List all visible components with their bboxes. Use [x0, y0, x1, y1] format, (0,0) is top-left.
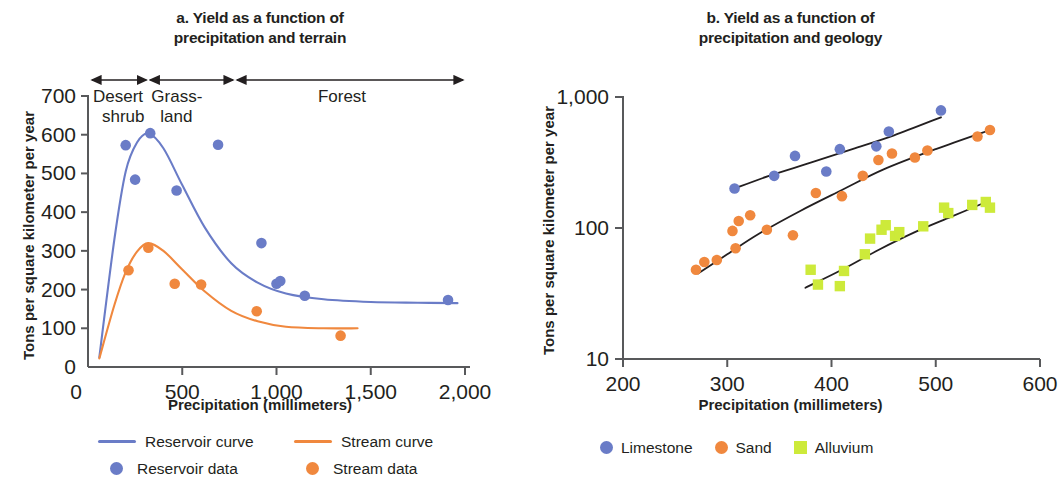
data-point	[811, 188, 822, 199]
data-point	[805, 265, 815, 275]
panel-b-x-tick-label: 500	[918, 372, 953, 395]
data-point	[936, 105, 947, 116]
legend-row: LimestoneSandAlluvium	[600, 434, 1020, 461]
data-point	[985, 125, 996, 136]
legend-item[interactable]: Reservoir curve	[98, 433, 294, 451]
data-point	[699, 257, 710, 268]
legend-item[interactable]: Reservoir data	[98, 460, 294, 478]
data-point	[884, 126, 895, 137]
data-point	[887, 148, 898, 159]
legend-marker-dot	[110, 462, 123, 475]
data-point	[733, 216, 744, 227]
data-point	[769, 171, 780, 182]
legend-item[interactable]: Limestone	[600, 439, 693, 457]
legend-item[interactable]: Alluvium	[794, 439, 874, 457]
legend-item-label: Stream data	[333, 460, 417, 478]
data-point	[790, 151, 801, 162]
data-point	[712, 255, 723, 266]
figure-root: a. Yield as a function of precipitation …	[0, 0, 1061, 488]
legend-marker-dot	[715, 441, 728, 454]
panel-b-legend: LimestoneSandAlluvium	[600, 434, 1020, 461]
legend-item-label: Stream curve	[341, 433, 433, 451]
legend-marker-dot	[600, 441, 613, 454]
data-point	[762, 224, 773, 235]
data-point	[894, 227, 904, 237]
legend-marker-line	[98, 440, 136, 443]
data-point	[730, 243, 741, 254]
panel-a-legend: Reservoir curveStream curveReservoir dat…	[98, 428, 498, 482]
data-point	[918, 221, 928, 231]
legend-item-label: Limestone	[621, 439, 693, 457]
panel-b-y-tick-label: 100	[574, 216, 609, 239]
data-point	[860, 249, 870, 259]
legend-item-label: Alluvium	[815, 439, 874, 457]
data-point	[967, 200, 977, 210]
series-trend-line	[805, 201, 987, 287]
data-point	[788, 230, 799, 241]
data-point	[873, 155, 884, 166]
data-point	[691, 264, 702, 275]
legend-marker-line	[294, 440, 332, 443]
data-point	[729, 183, 740, 194]
panel-b-x-tick-label: 300	[710, 372, 745, 395]
data-point	[922, 145, 933, 156]
panel-b-x-tick-label: 400	[814, 372, 849, 395]
data-point	[857, 171, 868, 182]
data-point	[865, 233, 875, 243]
legend-item[interactable]: Sand	[715, 439, 772, 457]
data-point	[972, 131, 983, 142]
legend-row: Reservoir curveStream curve	[98, 428, 498, 455]
data-point	[835, 144, 846, 155]
data-point	[871, 141, 882, 152]
data-point	[837, 191, 848, 202]
legend-item-label: Reservoir curve	[145, 433, 254, 451]
legend-item-label: Sand	[736, 439, 772, 457]
data-point	[727, 226, 738, 237]
legend-item[interactable]: Stream data	[294, 460, 490, 478]
panel-b-y-tick-label: 10	[586, 347, 609, 370]
panel-b-x-tick-label: 600	[1022, 372, 1057, 395]
legend-item[interactable]: Stream curve	[294, 433, 490, 451]
data-point	[881, 220, 891, 230]
data-point	[745, 210, 756, 221]
data-point	[910, 152, 921, 163]
data-point	[835, 281, 845, 291]
data-point	[943, 208, 953, 218]
data-point	[985, 202, 995, 212]
legend-item-label: Reservoir data	[137, 460, 238, 478]
panel-b-y-tick-label: 1,000	[556, 85, 609, 108]
data-point	[813, 279, 823, 289]
data-point	[821, 166, 832, 177]
panel-b-x-tick-label: 200	[605, 372, 640, 395]
panel-b-plot: 101001,000200300400500600	[0, 0, 1061, 420]
legend-row: Reservoir dataStream data	[98, 455, 498, 482]
data-point	[839, 266, 849, 276]
legend-marker-dot	[306, 462, 319, 475]
legend-marker-square	[794, 441, 807, 454]
